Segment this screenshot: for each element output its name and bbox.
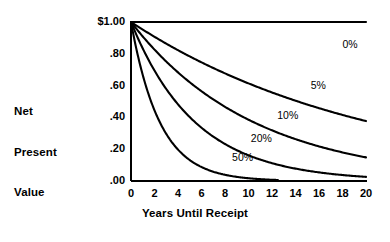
y-tick-label: $1.00 — [97, 15, 125, 27]
series-label-50pct: 50% — [232, 151, 253, 163]
curve-5pct — [131, 22, 366, 121]
y-axis-title-line-3: Value — [14, 186, 57, 200]
x-tick-label: 20 — [346, 187, 386, 199]
series-label-10pct: 10% — [277, 109, 298, 121]
y-axis-title-line-2: Present — [14, 146, 57, 160]
chart-canvas — [0, 0, 390, 242]
y-tick-label: .80 — [110, 47, 125, 59]
y-tick-label: .60 — [110, 79, 125, 91]
curve-50pct — [131, 22, 278, 180]
x-axis-title: Years Until Receipt — [0, 207, 390, 221]
y-axis-title: Net Present Value — [14, 78, 57, 227]
chart-figure: Net Present Value Years Until Receipt $1… — [0, 0, 390, 242]
y-tick-label: .40 — [110, 110, 125, 122]
y-axis-title-line-1: Net — [14, 105, 57, 119]
y-tick-label: .00 — [110, 174, 125, 186]
series-label-0pct: 0% — [343, 38, 358, 50]
series-label-20pct: 20% — [251, 132, 272, 144]
series-label-5pct: 5% — [311, 79, 326, 91]
y-tick-label: .20 — [110, 142, 125, 154]
